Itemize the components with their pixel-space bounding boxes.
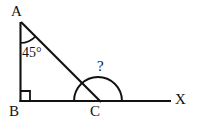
vertex-label-a: A <box>11 4 22 19</box>
angle-label-a: 45° <box>22 46 42 60</box>
angle-arc-c <box>74 77 122 101</box>
geometry-figure: A B C X 45° ? <box>0 0 197 127</box>
vertex-label-x: X <box>175 92 186 107</box>
vertex-label-b: B <box>9 104 19 119</box>
vertex-label-c: C <box>90 104 100 119</box>
angle-arc-a <box>21 36 36 43</box>
angle-label-c: ? <box>97 59 104 74</box>
right-angle-mark-b <box>21 91 31 101</box>
segment-ac <box>21 22 101 102</box>
